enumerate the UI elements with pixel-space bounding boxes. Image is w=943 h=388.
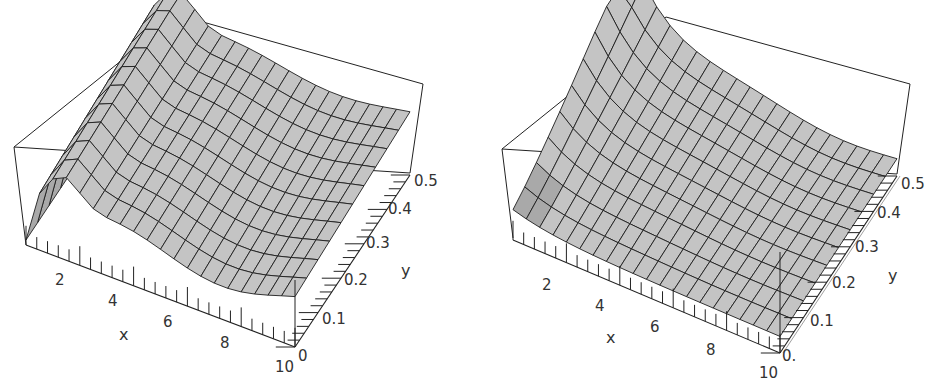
plot-left-canvas: 2 4 6 8 10 x 0 0.1 0.2 0.3 0.4 0.5 y (0, 0, 470, 388)
y-tick-label: 0.4 (877, 204, 901, 222)
y-tick-label: 0.1 (810, 312, 834, 330)
surface-plot-left: 2 4 6 8 10 x 0 0.1 0.2 0.3 0.4 0.5 y (0, 0, 470, 388)
surface-plot-right: 2 4 6 8 10 x 0. 0.1 0.2 0.3 0.4 0.5 y (470, 0, 943, 388)
x-tick-label: 8 (706, 341, 716, 359)
x-axis-label: x (606, 328, 615, 347)
y-tick-label: 0.1 (322, 310, 346, 328)
x-tick-label: 2 (55, 271, 65, 289)
x-tick-label: 6 (650, 318, 660, 336)
y-tick-label: 0.4 (388, 200, 412, 218)
plot-right-canvas: 2 4 6 8 10 x 0. 0.1 0.2 0.3 0.4 0.5 y (470, 0, 943, 388)
y-tick-label: 0. (782, 347, 796, 365)
x-tick-label: 10 (759, 364, 778, 382)
x-tick-label: 4 (108, 292, 118, 310)
y-tick-label: 0.2 (344, 271, 368, 289)
x-axis-label: x (119, 325, 128, 344)
x-tick-label: 4 (595, 297, 605, 315)
x-tick-label: 8 (220, 334, 230, 352)
y-tick-label: 0.5 (901, 175, 925, 193)
y-tick-label: 0.2 (832, 274, 856, 292)
y-axis-label: y (888, 266, 897, 285)
x-tick-label: 10 (275, 358, 294, 376)
y-tick-label: 0.5 (414, 172, 438, 190)
x-tick-label: 2 (542, 276, 552, 294)
surface-mesh (26, 0, 410, 297)
y-tick-label: 0.3 (366, 234, 390, 252)
y-tick-label: 0.3 (855, 238, 879, 256)
y-tick-label: 0 (298, 347, 308, 365)
x-tick-label: 6 (163, 313, 173, 331)
y-axis-label: y (401, 261, 410, 280)
